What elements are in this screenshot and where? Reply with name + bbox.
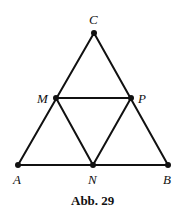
segment-mn — [56, 98, 93, 165]
segment-np — [93, 98, 131, 165]
label-p: P — [137, 91, 146, 106]
label-m: M — [36, 91, 49, 106]
label-a: A — [12, 172, 21, 187]
label-c: C — [89, 12, 98, 27]
triangle-diagram: C M P A N B Abb. 29 — [0, 0, 181, 214]
point-b — [165, 162, 171, 168]
point-m — [53, 95, 59, 101]
point-a — [15, 162, 21, 168]
label-n: N — [87, 172, 98, 187]
point-n — [90, 162, 96, 168]
point-p — [128, 95, 134, 101]
figure-caption: Abb. 29 — [71, 193, 115, 208]
label-b: B — [163, 172, 171, 187]
point-c — [91, 30, 97, 36]
